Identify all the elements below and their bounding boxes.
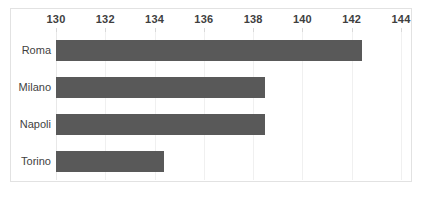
x-axis-tick-label: 130: [47, 13, 66, 25]
x-axis-tick-label: 138: [244, 13, 263, 25]
bar[interactable]: [56, 151, 164, 172]
bar-row: [56, 69, 401, 106]
bar-row: [56, 143, 401, 180]
y-axis-category-labels: RomaMilanoNapoliTorino: [11, 32, 56, 180]
bar[interactable]: [56, 77, 265, 98]
bar-row: [56, 106, 401, 143]
x-axis-tick-label: 142: [342, 13, 361, 25]
plot-area: [56, 32, 401, 180]
category-label: Milano: [19, 69, 51, 106]
x-axis-tick-label: 140: [293, 13, 312, 25]
category-label: Roma: [22, 32, 51, 69]
gridline: [401, 32, 402, 180]
x-axis-tick-label: 136: [194, 13, 213, 25]
x-axis-tick-label: 144: [392, 13, 411, 25]
bar[interactable]: [56, 40, 362, 61]
x-axis-tick-label: 132: [96, 13, 115, 25]
bar[interactable]: [56, 114, 265, 135]
bar-row: [56, 32, 401, 69]
category-label: Napoli: [20, 106, 51, 143]
category-label: Torino: [21, 143, 51, 180]
x-axis-tick-label: 134: [145, 13, 164, 25]
bar-series: [56, 32, 401, 180]
chart-container: 130132134136138140142144 RomaMilanoNapol…: [10, 8, 412, 182]
